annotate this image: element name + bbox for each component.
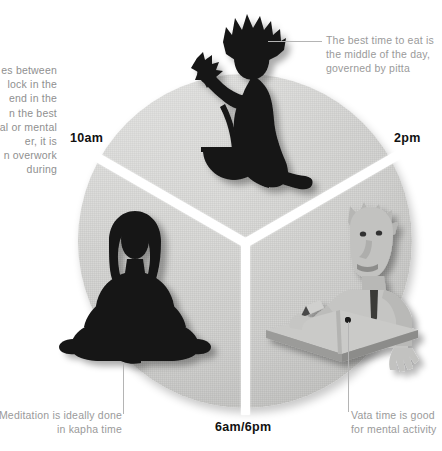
meditating-figure — [55, 205, 215, 365]
leader-line-meditation-note — [123, 362, 124, 414]
time-label-2pm: 2pm — [394, 131, 421, 145]
leader-line-vata-note — [348, 320, 349, 412]
annotation-eat-note: The best time to eat is the middle of th… — [326, 33, 442, 76]
diagram-canvas: 10am 2pm 6am/6pm es between lock in the … — [0, 0, 442, 451]
leader-anchor-dot — [345, 317, 350, 322]
time-label-10am: 10am — [70, 131, 103, 145]
segment-divider-bottom — [241, 243, 250, 415]
time-label-6am-6pm: 6am/6pm — [215, 420, 271, 434]
annotation-meditation-note: Meditation is ideally done in kapha time — [0, 408, 122, 436]
writing-figure — [262, 198, 424, 378]
eating-figure — [185, 8, 315, 198]
annotation-left-body-text: es between lock in the end in the n the … — [0, 63, 57, 177]
annotation-vata-note: Vata time is good for mental activity — [351, 408, 442, 436]
leader-line-eat-note — [268, 41, 322, 42]
